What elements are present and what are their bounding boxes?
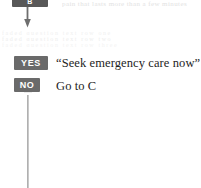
ghost-text-line-2: faded question text row two [2,36,199,41]
answer-row-yes[interactable]: YES “Seek emergency care now” [0,54,201,76]
spine-cap [24,92,32,93]
ghost-text-band: faded question text row one faded questi… [0,29,201,48]
flowchart-spine-line [27,95,29,188]
badge-no[interactable]: NO [14,78,40,92]
answer-text-yes: “Seek emergency care now” [56,54,200,72]
flowchart-node-top[interactable]: B [12,0,48,7]
ghost-text-line-1: faded question text row one [2,30,199,35]
answer-row-no[interactable]: NO Go to C [0,76,201,98]
flowchart-node-top-label: B [12,0,48,6]
flowchart-page: B pain that lasts more than a few minute… [0,0,201,188]
flowchart-spine-line-inner [27,95,28,188]
answer-text-no: Go to C [56,77,96,95]
ghost-text-top-right: pain that lasts more than a few minutes [62,0,192,7]
ghost-text-line-3: faded question text row three [2,42,199,47]
down-arrow-icon [24,7,31,28]
badge-yes[interactable]: YES [14,56,48,70]
